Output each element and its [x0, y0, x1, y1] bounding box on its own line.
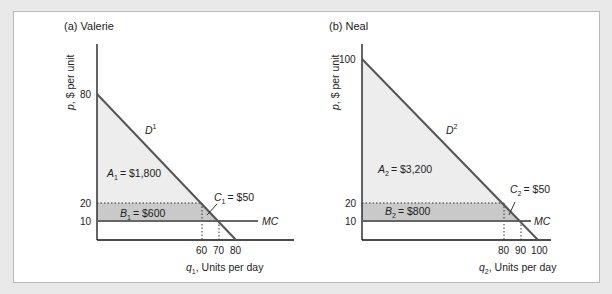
y-tick-20: 20: [345, 198, 357, 209]
area-c1-label: C1= $50: [214, 191, 254, 205]
y-tick-80: 80: [80, 89, 92, 100]
x-axis-label: q1, Units per day: [186, 261, 264, 275]
chart-valerie: (a) Valerie 80 20 10 60 70 80 p, $ per u…: [64, 20, 294, 275]
y-tick-100: 100: [339, 54, 356, 65]
area-c2-label: C2= $50: [510, 183, 550, 197]
area-b1-label: B1= $600: [120, 207, 165, 221]
chart-title: (b) Neal: [329, 20, 368, 32]
x-tick-60: 60: [196, 245, 208, 256]
mc-label: MC: [534, 215, 551, 227]
y-axis-label: p, $ per unit: [64, 54, 76, 111]
x-axis-label: q2, Units per day: [479, 261, 557, 275]
area-c2: [504, 203, 521, 221]
x-tick-100: 100: [531, 245, 548, 256]
y-tick-20: 20: [80, 198, 92, 209]
chart-title: (a) Valerie: [64, 20, 114, 32]
x-tick-80: 80: [498, 245, 510, 256]
x-tick-90: 90: [515, 245, 527, 256]
y-tick-10: 10: [80, 216, 92, 227]
chart-neal: (b) Neal 100 20 10 80 90 100 p, $ per un…: [329, 20, 557, 275]
x-tick-70: 70: [213, 245, 225, 256]
demand-label: D1: [145, 123, 157, 136]
mc-label: MC: [262, 215, 279, 227]
y-axis-label: p, $ per unit: [329, 54, 341, 111]
demand-label: D2: [446, 123, 458, 136]
x-tick-80: 80: [230, 245, 242, 256]
y-tick-10: 10: [345, 216, 357, 227]
charts-canvas: (a) Valerie 80 20 10 60 70 80 p, $ per u…: [0, 0, 612, 294]
area-b2-label: B2= $800: [385, 205, 430, 219]
